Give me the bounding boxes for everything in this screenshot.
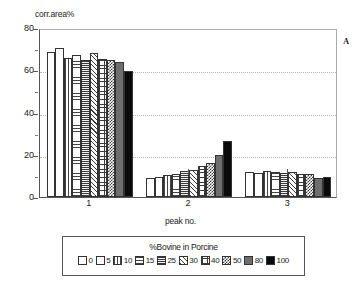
legend-item[interactable]: 5	[96, 256, 111, 265]
bar[interactable]	[271, 172, 280, 197]
chart-figure: corr.area% 020406080 123 peak no. A %Bov…	[0, 0, 361, 289]
bar[interactable]	[254, 173, 263, 197]
legend-item[interactable]: 80	[244, 256, 263, 265]
bar[interactable]	[55, 48, 64, 197]
bar-group	[245, 30, 331, 197]
y-axis-tick-label: 60	[0, 66, 34, 75]
bar[interactable]	[223, 141, 232, 197]
legend-swatch-icon	[78, 256, 87, 265]
bar[interactable]	[146, 178, 155, 197]
bar[interactable]	[163, 175, 172, 197]
legend-swatch-icon	[96, 256, 105, 265]
legend-swatch-icon	[222, 256, 231, 265]
y-axis-tick-mark	[33, 29, 38, 30]
bar[interactable]	[90, 53, 99, 197]
bar[interactable]	[215, 155, 224, 197]
bar[interactable]	[81, 60, 90, 197]
legend-title: %Bovine in Porcine	[63, 242, 304, 252]
bar[interactable]	[305, 174, 314, 197]
panel-letter: A	[343, 37, 349, 46]
legend-item[interactable]: 10	[113, 256, 132, 265]
legend: %Bovine in Porcine 0510152530405080100	[62, 236, 305, 276]
legend-item[interactable]: 50	[222, 256, 241, 265]
bar[interactable]	[172, 174, 181, 197]
bar[interactable]	[115, 62, 124, 197]
bar[interactable]	[189, 170, 198, 197]
bar[interactable]	[124, 71, 133, 197]
y-axis-minor-tick	[35, 50, 38, 51]
y-axis-title: corr.area%	[35, 9, 74, 19]
y-axis-tick-label: 40	[0, 109, 34, 118]
legend-item[interactable]: 100	[266, 256, 289, 265]
y-axis-tick-label: 20	[0, 151, 34, 160]
legend-item-label: 15	[146, 257, 154, 265]
y-axis-tick-label: 0	[0, 193, 34, 202]
bar[interactable]	[107, 60, 116, 197]
legend-item[interactable]: 30	[179, 256, 198, 265]
bar[interactable]	[155, 177, 164, 197]
legend-item[interactable]: 0	[78, 256, 93, 265]
legend-swatch-icon	[135, 256, 144, 265]
legend-item[interactable]: 15	[135, 256, 154, 265]
y-axis-tick-mark	[33, 114, 38, 115]
legend-item[interactable]: 40	[201, 256, 220, 265]
legend-item-label: 0	[89, 257, 93, 265]
legend-item[interactable]: 25	[157, 256, 176, 265]
legend-item-label: 5	[106, 257, 110, 265]
legend-swatch-icon	[179, 256, 188, 265]
legend-item-label: 10	[124, 257, 132, 265]
bar-group	[47, 30, 133, 197]
bar[interactable]	[314, 178, 323, 197]
x-axis-tick-label: 3	[272, 199, 302, 208]
y-axis-minor-tick	[35, 92, 38, 93]
bar[interactable]	[288, 172, 297, 197]
bar[interactable]	[323, 177, 332, 197]
x-axis-tick-label: 2	[173, 199, 203, 208]
bar[interactable]	[263, 171, 272, 197]
legend-swatch-icon	[201, 256, 210, 265]
bar[interactable]	[206, 163, 215, 197]
x-axis-title: peak no.	[0, 216, 361, 226]
bar[interactable]	[64, 58, 73, 197]
bar[interactable]	[98, 59, 107, 197]
bar[interactable]	[72, 55, 81, 197]
y-axis-tick-label: 80	[0, 24, 34, 33]
legend-item-label: 30	[189, 257, 197, 265]
legend-item-label: 50	[233, 257, 241, 265]
legend-swatch-icon	[244, 256, 253, 265]
legend-item-label: 100	[277, 257, 289, 265]
x-axis-tick-mark	[188, 169, 189, 174]
legend-swatch-icon	[157, 256, 166, 265]
legend-item-label: 80	[255, 257, 263, 265]
bar[interactable]	[180, 171, 189, 197]
y-axis-minor-tick	[35, 135, 38, 136]
x-axis-tick-mark	[287, 169, 288, 174]
bar[interactable]	[198, 166, 207, 197]
bar[interactable]	[280, 173, 289, 197]
legend-swatch-icon	[113, 256, 122, 265]
legend-item-list: 0510152530405080100	[63, 256, 304, 265]
bar[interactable]	[47, 52, 56, 197]
legend-swatch-icon	[266, 256, 275, 265]
legend-item-label: 40	[211, 257, 219, 265]
legend-item-label: 25	[167, 257, 175, 265]
y-axis-tick-mark	[33, 156, 38, 157]
x-axis-tick-label: 1	[74, 199, 104, 208]
y-axis-minor-tick	[35, 177, 38, 178]
x-axis-tick-mark	[89, 169, 90, 174]
bar-group	[146, 30, 232, 197]
bar[interactable]	[245, 172, 254, 197]
y-axis-tick-mark	[33, 71, 38, 72]
bar[interactable]	[297, 174, 306, 197]
y-axis-tick-mark	[33, 198, 38, 199]
